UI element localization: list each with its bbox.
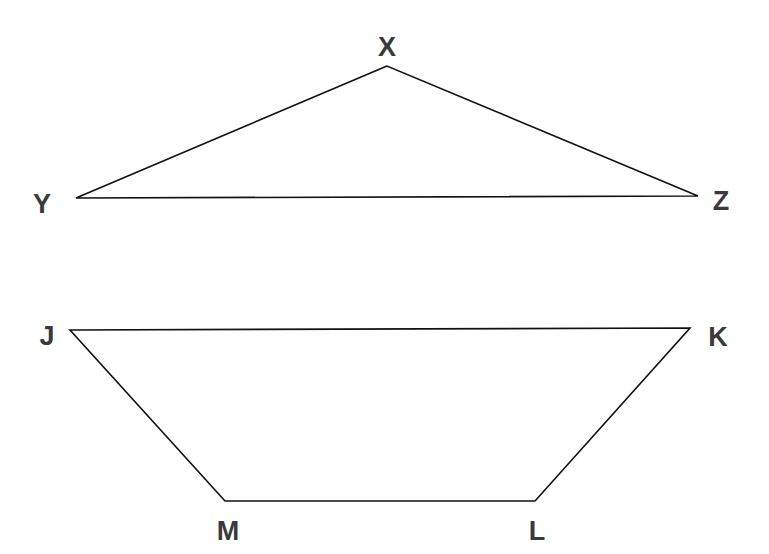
vertex-label-z: Z [713, 186, 730, 216]
vertex-label-l: L [529, 516, 546, 546]
trapezoid-jklm-outline [70, 328, 690, 501]
trapezoid-jklm: J K L M [39, 321, 728, 546]
vertex-label-j: J [39, 321, 54, 351]
vertex-label-x: X [378, 32, 396, 62]
vertex-label-k: K [708, 322, 728, 352]
triangle-xyz: X Y Z [33, 32, 729, 219]
vertex-label-y: Y [33, 189, 51, 219]
geometry-diagram: X Y Z J K L M [0, 0, 769, 554]
triangle-xyz-outline [76, 66, 698, 198]
vertex-label-m: M [217, 516, 240, 546]
